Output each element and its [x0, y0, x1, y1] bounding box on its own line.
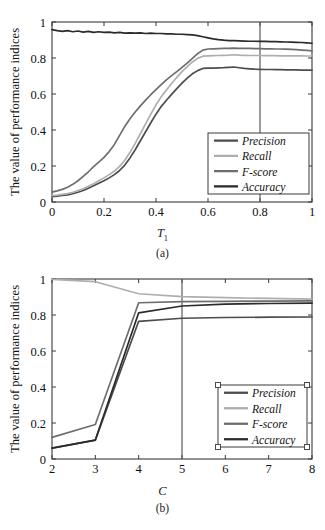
y-tick-label: 0.4: [30, 381, 46, 395]
legend-selection-handle[interactable]: [216, 445, 221, 450]
legend-selection-handle[interactable]: [305, 383, 310, 388]
legend-label-f-score: F-score: [241, 166, 277, 178]
y-tick-label: 1: [40, 16, 46, 30]
y-tick-label: 0.2: [30, 160, 46, 174]
x-tick-label: 1: [309, 205, 315, 219]
y-tick-label: 0.6: [30, 345, 46, 359]
y-tick-label: 0.6: [30, 88, 46, 102]
x-tick-label: 2: [49, 462, 55, 476]
legend-selection-handle[interactable]: [305, 445, 310, 450]
panel-a-xaxis-label: T1: [0, 226, 325, 243]
y-axis-label: The value of performance indices: [8, 28, 22, 196]
legend-label-recall: Recall: [241, 150, 271, 162]
x-tick-label: 0: [49, 205, 55, 219]
series-line-accuracy: [52, 30, 312, 44]
y-tick-label: 0.8: [30, 309, 46, 323]
y-tick-label: 0.8: [30, 52, 46, 66]
panel-a-caption: (a): [0, 247, 325, 259]
y-tick-label: 1: [40, 273, 46, 287]
x-tick-label: 0.8: [252, 205, 268, 219]
legend-label-accuracy: Accuracy: [241, 181, 286, 194]
x-tick-label: 5: [179, 462, 185, 476]
x-tick-label: 4: [136, 462, 143, 476]
panel-b-caption: (b): [0, 502, 325, 514]
xlabel-a-base: T: [157, 226, 164, 240]
legend-selection-handle[interactable]: [216, 383, 221, 388]
x-tick-label: 6: [222, 462, 228, 476]
plot-area-a: 00.20.40.60.8100.20.40.60.81The value of…: [0, 0, 325, 245]
legend[interactable]: PrecisionRecallF-scoreAccuracy: [218, 385, 307, 447]
x-tick-label: 8: [309, 462, 315, 476]
legend[interactable]: PrecisionRecallF-scoreAccuracy: [208, 133, 309, 194]
y-axis-label: The value of performance indices: [8, 285, 22, 453]
plot-area-b: 234567800.20.40.60.81The value of perfor…: [0, 262, 325, 502]
legend-label-accuracy: Accuracy: [251, 434, 296, 447]
y-tick-label: 0: [40, 453, 46, 467]
legend-label-f-score: F-score: [251, 418, 287, 430]
x-tick-label: 0.2: [96, 205, 112, 219]
y-tick-label: 0: [40, 196, 46, 210]
x-tick-label: 7: [266, 462, 272, 476]
panel-b-xaxis-label: C: [0, 484, 325, 499]
legend-label-recall: Recall: [251, 403, 281, 415]
x-tick-label: 3: [92, 462, 98, 476]
legend-label-precision: Precision: [251, 387, 296, 399]
y-tick-label: 0.4: [30, 124, 46, 138]
x-tick-label: 0.4: [148, 205, 164, 219]
legend-label-precision: Precision: [241, 135, 286, 147]
xlabel-a-subscript: 1: [164, 233, 168, 243]
y-tick-label: 0.2: [30, 417, 46, 431]
x-tick-label: 0.6: [200, 205, 216, 219]
